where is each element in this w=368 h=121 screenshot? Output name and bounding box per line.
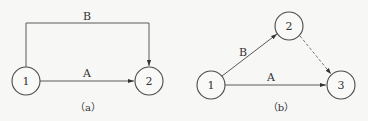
node-b-3: 3 [327,71,355,99]
node-b-1: 1 [197,71,225,99]
node-a-1: 1 [12,67,40,95]
node-b-2: 2 [275,12,303,40]
caption-b: （b） [268,102,294,113]
node-a-2: 2 [135,67,163,95]
edge-label-a-A: A [82,67,92,80]
edge-label-b-A: A [266,71,276,84]
edge-label-a-B: B [83,10,91,23]
network-diagrams: B A 1 2 （a） B A 1 2 3 （b） [0,0,368,121]
svg-text:1: 1 [208,79,215,92]
edge-a-B [26,23,149,67]
svg-text:2: 2 [146,75,153,88]
edge-label-b-B: B [239,46,247,59]
diagram-a: B A 1 2 （a） [12,10,163,113]
edge-b-B [222,34,277,76]
svg-text:3: 3 [338,79,345,92]
caption-a: （a） [75,102,101,113]
diagram-b: B A 1 2 3 （b） [197,12,355,113]
edge-b-dummy [300,36,331,74]
svg-text:1: 1 [23,75,30,88]
svg-text:2: 2 [286,20,293,33]
